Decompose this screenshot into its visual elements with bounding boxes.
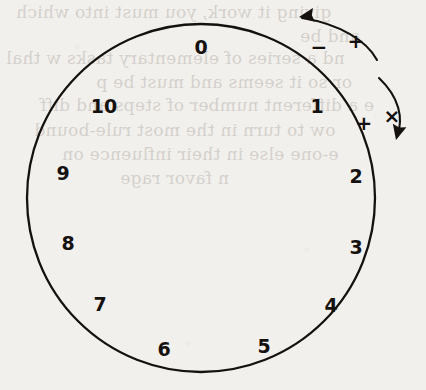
operator-symbol: − <box>311 35 328 59</box>
decrement-arrow: −+ <box>298 8 377 60</box>
operator-symbol: + <box>356 111 373 135</box>
operator-dial-diagram: 012345678910 −++× <box>0 0 426 390</box>
dial-number-4: 4 <box>324 294 337 316</box>
operator-symbol: × <box>384 104 401 128</box>
dial-number-9: 9 <box>56 162 69 184</box>
operator-symbol: + <box>348 29 365 53</box>
dial-number-group: 012345678910 <box>56 36 362 360</box>
dial-number-1: 1 <box>310 95 323 117</box>
dial-circle <box>27 24 375 372</box>
dial-number-2: 2 <box>349 165 362 187</box>
dial-number-5: 5 <box>257 335 270 357</box>
increment-arrow: +× <box>356 78 407 142</box>
decrement-arrow-head-icon <box>298 8 315 24</box>
dial-number-0: 0 <box>194 36 207 58</box>
dial-number-8: 8 <box>61 232 74 254</box>
direction-arrow-group: −++× <box>298 8 406 142</box>
dial-number-3: 3 <box>349 236 362 258</box>
dial-number-10: 10 <box>91 95 117 117</box>
dial-number-7: 7 <box>93 293 106 315</box>
dial-number-6: 6 <box>157 338 170 360</box>
